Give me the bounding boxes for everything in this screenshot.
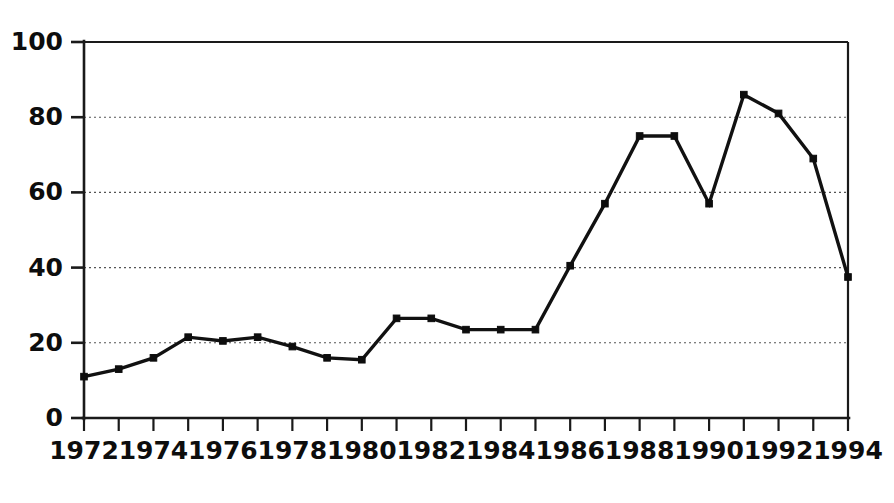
data-point-1994	[845, 274, 852, 281]
y-tick-labels: 020406080100	[11, 27, 63, 432]
data-point-1977	[254, 334, 261, 341]
data-point-1987	[602, 200, 609, 207]
data-series-line	[84, 95, 848, 377]
data-point-1980	[359, 356, 366, 363]
data-point-1979	[324, 355, 331, 362]
data-point-1985	[532, 326, 539, 333]
data-point-1988	[636, 133, 643, 140]
y-tick-label-40: 40	[28, 253, 63, 282]
data-point-1978	[289, 343, 296, 350]
x-tick-label-1988: 1988	[605, 436, 675, 465]
x-tick-label-1986: 1986	[535, 436, 605, 465]
y-tick-marks	[71, 42, 84, 418]
data-point-1993	[810, 155, 817, 162]
data-point-1983	[463, 326, 470, 333]
data-point-1991	[741, 91, 748, 98]
y-tick-label-80: 80	[28, 102, 63, 131]
x-tick-label-1982: 1982	[396, 436, 466, 465]
y-tick-label-20: 20	[28, 328, 63, 357]
y-tick-label-0: 0	[46, 403, 63, 432]
data-point-1984	[497, 326, 504, 333]
x-tick-label-1974: 1974	[119, 436, 189, 465]
data-point-1992	[775, 110, 782, 117]
x-tick-label-1992: 1992	[744, 436, 814, 465]
data-point-1974	[150, 355, 157, 362]
x-tick-marks	[84, 418, 848, 431]
data-point-1989	[671, 133, 678, 140]
data-point-1975	[185, 334, 192, 341]
x-tick-label-1994: 1994	[813, 436, 883, 465]
data-point-1981	[393, 315, 400, 322]
x-tick-label-1990: 1990	[674, 436, 744, 465]
y-tick-label-60: 60	[28, 177, 63, 206]
x-tick-labels: 1972197419761978198019821984198619881990…	[49, 436, 883, 465]
plot-frame	[84, 42, 848, 418]
series-polyline	[84, 95, 848, 377]
chart-canvas: 020406080100 197219741976197819801982198…	[0, 0, 894, 503]
data-point-1990	[706, 200, 713, 207]
x-tick-label-1976: 1976	[188, 436, 258, 465]
data-point-1976	[220, 338, 227, 345]
data-point-1986	[567, 262, 574, 269]
line-chart: 020406080100 197219741976197819801982198…	[0, 0, 894, 503]
data-point-1972	[81, 373, 88, 380]
data-point-1973	[115, 366, 122, 373]
data-point-1982	[428, 315, 435, 322]
gridlines-group	[84, 117, 848, 343]
x-tick-label-1984: 1984	[466, 436, 536, 465]
x-tick-label-1980: 1980	[327, 436, 397, 465]
y-tick-label-100: 100	[11, 27, 63, 56]
x-tick-label-1978: 1978	[258, 436, 328, 465]
x-tick-label-1972: 1972	[49, 436, 119, 465]
